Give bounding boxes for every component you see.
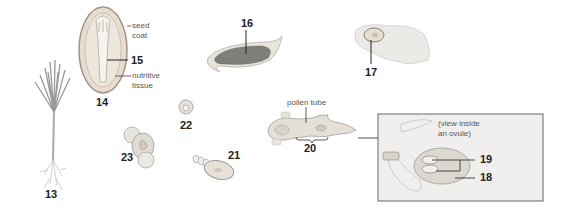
pollen-tube-label: pollen tube: [287, 98, 326, 108]
ovule-scale-illustration: [355, 25, 429, 64]
inset-caption-line1: (view inside: [438, 119, 480, 129]
label-18: 18: [480, 172, 492, 183]
label-23: 23: [121, 152, 133, 163]
nutritive-tissue-label-line1: nutritive: [132, 71, 160, 81]
seed-coat-label-line1: seed: [132, 21, 149, 31]
label-13: 13: [45, 189, 57, 200]
pollen-grain-illustration: [268, 107, 392, 153]
label-14: 14: [96, 97, 108, 108]
dividing-cell-illustration: [179, 100, 193, 114]
label-22: 22: [180, 120, 192, 131]
label-16: 16: [241, 18, 253, 29]
seedling-illustration: [35, 60, 70, 190]
seed-coat-label-line2: coat: [132, 31, 147, 41]
sporangium-illustration: [207, 30, 282, 72]
label-17: 17: [365, 67, 377, 78]
label-21: 21: [228, 150, 240, 161]
inset-caption-line2: an ovule): [438, 129, 471, 139]
label-15: 15: [131, 55, 143, 66]
nutritive-tissue-label-line2: tissue: [132, 81, 153, 91]
label-20: 20: [304, 143, 316, 154]
seed-illustration: [79, 7, 131, 93]
label-19: 19: [480, 154, 492, 165]
